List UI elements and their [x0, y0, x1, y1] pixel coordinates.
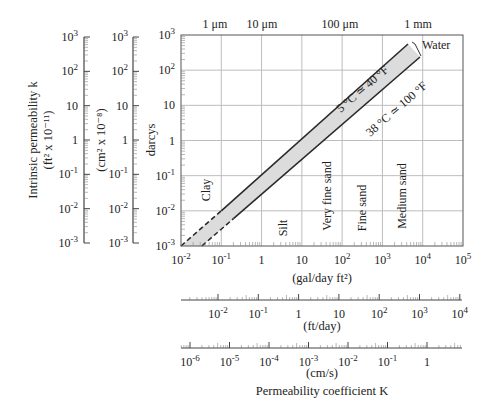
top-label-1um: 1 μm — [203, 17, 228, 31]
svg-text:10: 10 — [116, 99, 128, 113]
svg-text:104: 104 — [452, 305, 469, 321]
svg-text:103: 103 — [112, 28, 129, 44]
soil-label-silt: Silt — [276, 219, 290, 236]
svg-text:1: 1 — [259, 253, 265, 267]
svg-text:103: 103 — [159, 26, 176, 42]
cms-axis-unit: (cm/s) — [306, 366, 338, 380]
gal-axis-unit: (gal/day ft²) — [292, 271, 352, 285]
svg-text:10-1: 10-1 — [59, 165, 79, 181]
svg-text:103: 103 — [62, 28, 79, 44]
svg-text:10-3: 10-3 — [156, 237, 176, 253]
svg-text:1: 1 — [72, 133, 78, 147]
soil-label-clay: Clay — [199, 179, 213, 202]
svg-text:10-2: 10-2 — [59, 200, 79, 216]
svg-text:10-2: 10-2 — [338, 353, 358, 369]
svg-text:10: 10 — [163, 98, 175, 112]
svg-text:102: 102 — [371, 305, 388, 321]
darcys-axis-title: darcys — [144, 124, 158, 157]
soil-label-very-fine-sand: Very fine sand — [320, 161, 334, 230]
soil-label-medium-sand: Medium sand — [395, 163, 409, 229]
svg-text:103: 103 — [374, 251, 391, 267]
water-label: Water — [422, 38, 450, 52]
svg-text:10-2: 10-2 — [171, 251, 191, 267]
top-label-100um: 100 μm — [322, 17, 359, 31]
svg-text:10-1: 10-1 — [156, 167, 176, 183]
soil-label-fine-sand: Fine sand — [355, 185, 369, 231]
svg-text:10-2: 10-2 — [208, 305, 228, 321]
ftday-axis-unit: (ft/day) — [303, 319, 340, 333]
svg-text:10: 10 — [66, 99, 78, 113]
svg-text:10-5: 10-5 — [220, 353, 240, 369]
svg-text:10-2: 10-2 — [156, 202, 176, 218]
left-axis-unit-2: (cm² x 10⁻⁸) — [94, 108, 108, 171]
svg-text:10-3: 10-3 — [59, 234, 79, 250]
top-label-1mm: 1 mm — [404, 17, 432, 31]
left-axis-title-1: Intrinsic permeability k — [26, 81, 40, 199]
svg-text:102: 102 — [159, 61, 176, 77]
svg-text:10-1: 10-1 — [378, 353, 398, 369]
svg-text:1: 1 — [122, 133, 128, 147]
svg-text:104: 104 — [414, 251, 431, 267]
svg-text:102: 102 — [334, 251, 351, 267]
left-axis-unit-1: (ft² x 10⁻¹¹) — [41, 111, 55, 170]
top-label-10um: 10 μm — [247, 17, 278, 31]
svg-text:103: 103 — [411, 305, 428, 321]
svg-text:10-6: 10-6 — [180, 353, 200, 369]
svg-text:1: 1 — [296, 307, 302, 321]
tick-labels: 10-310-210-111010210310-310-210-11101021… — [59, 26, 472, 369]
svg-text:10-1: 10-1 — [212, 251, 232, 267]
svg-text:10-4: 10-4 — [259, 353, 279, 369]
svg-text:10-1: 10-1 — [109, 165, 129, 181]
svg-text:10: 10 — [296, 253, 308, 267]
svg-text:10-2: 10-2 — [109, 200, 129, 216]
bottom-axis-title: Permeability coefficient K — [256, 384, 388, 398]
svg-text:105: 105 — [455, 251, 472, 267]
svg-text:102: 102 — [112, 62, 129, 78]
svg-text:102: 102 — [62, 62, 79, 78]
permeability-chart: 10-310-210-111010210310-310-210-11101021… — [0, 0, 497, 419]
svg-text:1: 1 — [169, 134, 175, 148]
svg-text:10-3: 10-3 — [109, 234, 129, 250]
svg-text:1: 1 — [424, 355, 430, 369]
svg-text:10-1: 10-1 — [249, 305, 269, 321]
